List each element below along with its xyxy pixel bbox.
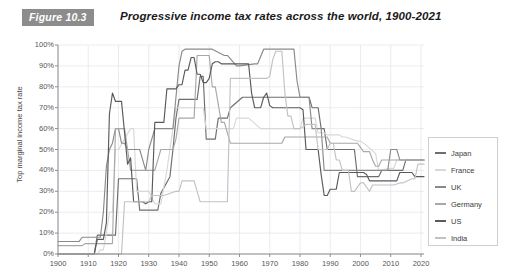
- legend-swatch-icon: [435, 169, 446, 171]
- legend-swatch-icon: [435, 152, 446, 154]
- figure-number-badge: Figure 10.3: [22, 9, 94, 26]
- legend-item-france[interactable]: France: [435, 164, 474, 176]
- x-tick-label: 1970: [255, 260, 285, 268]
- x-tick-label: 1910: [73, 260, 103, 268]
- x-tick-label: 1980: [285, 260, 315, 268]
- figure-title: Progressive income tax rates across the …: [120, 10, 441, 22]
- legend-label: UK: [451, 183, 461, 192]
- legend-item-japan[interactable]: Japan: [435, 147, 471, 159]
- legend-label: US: [451, 217, 461, 226]
- x-tick-label: 2020: [406, 260, 436, 268]
- legend-item-us[interactable]: US: [435, 215, 461, 227]
- legend-swatch-icon: [435, 186, 446, 188]
- x-tick-label: 1990: [315, 260, 345, 268]
- legend-label: Germany: [451, 200, 482, 209]
- legend-label: France: [451, 166, 474, 175]
- legend-item-germany[interactable]: Germany: [435, 198, 482, 210]
- legend-swatch-icon: [435, 203, 446, 205]
- legend-item-india[interactable]: India: [435, 232, 467, 244]
- legend-label: Japan: [451, 149, 471, 158]
- x-tick-label: 1930: [134, 260, 164, 268]
- x-tick-label: 1960: [224, 260, 254, 268]
- x-tick-label: 2000: [345, 260, 375, 268]
- series-line-germany: [58, 55, 424, 245]
- figure-container: Figure 10.3 Progressive income tax rates…: [0, 0, 517, 274]
- x-tick-label: 1900: [43, 260, 73, 268]
- x-tick-label: 1920: [103, 260, 133, 268]
- legend-swatch-icon: [435, 237, 446, 239]
- legend-swatch-icon: [435, 220, 446, 222]
- x-tick-label: 1950: [194, 260, 224, 268]
- figure-header: Figure 10.3 Progressive income tax rates…: [0, 0, 517, 34]
- chart-area: Top marginal income tax rate 0%10%20%30%…: [0, 34, 517, 274]
- chart-legend: JapanFranceUKGermanyUSIndia: [428, 137, 498, 246]
- legend-item-uk[interactable]: UK: [435, 181, 461, 193]
- x-tick-label: 2010: [376, 260, 406, 268]
- legend-label: India: [451, 234, 467, 243]
- x-tick-label: 1940: [164, 260, 194, 268]
